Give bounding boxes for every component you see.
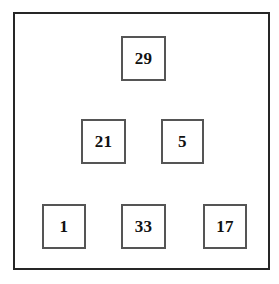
node-box[interactable]: 5 <box>161 119 204 164</box>
node-label: 5 <box>178 133 187 150</box>
node-box[interactable]: 1 <box>42 204 86 249</box>
node-box[interactable]: 17 <box>203 204 247 249</box>
figure-canvas: 29 21 5 1 33 17 <box>0 0 279 284</box>
node-box[interactable]: 29 <box>121 36 166 81</box>
node-box[interactable]: 21 <box>81 119 126 164</box>
node-label: 33 <box>135 218 153 235</box>
node-label: 17 <box>216 218 234 235</box>
node-label: 29 <box>135 50 153 67</box>
node-label: 1 <box>60 218 69 235</box>
node-box[interactable]: 33 <box>121 204 166 249</box>
node-label: 21 <box>95 133 113 150</box>
